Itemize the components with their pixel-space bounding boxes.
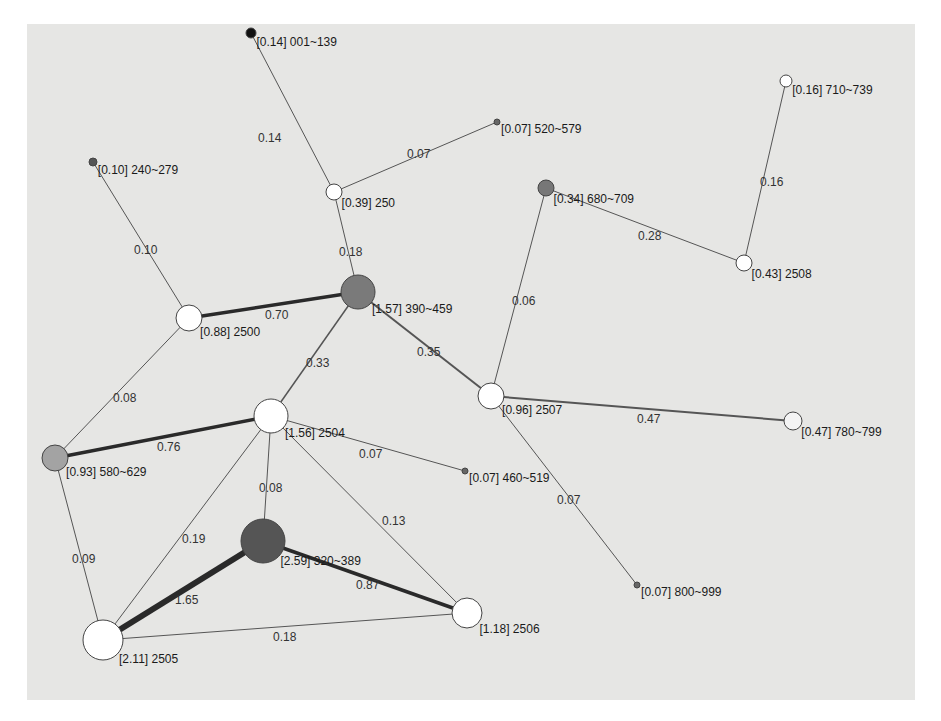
node-n240[interactable]: [0.10] 240~279 [89, 158, 179, 177]
node-label: [0.39] 250 [342, 196, 396, 210]
node-n460[interactable]: [0.07] 460~519 [462, 468, 550, 485]
edge-weight-label: 0.13 [382, 514, 406, 528]
edge-weight-label: 0.16 [760, 175, 784, 189]
edges-layer [55, 33, 793, 640]
node-n390[interactable]: [1.57] 390~459 [341, 275, 453, 316]
edge-weight-label: 0.18 [273, 630, 297, 644]
edge-weight-label: 0.18 [339, 245, 363, 259]
edge-weight-label: 0.08 [259, 481, 283, 495]
edge-weight-label: 0.07 [557, 493, 581, 507]
edge-weight-label: 0.70 [265, 308, 289, 322]
network-graph: 0.140.070.160.280.100.180.700.060.350.33… [0, 0, 941, 721]
node-n800[interactable]: [0.07] 800~999 [634, 582, 722, 599]
node-n001[interactable]: [0.14] 001~139 [246, 28, 337, 49]
edge-labels-layer: 0.140.070.160.280.100.180.700.060.350.33… [72, 131, 784, 644]
edge-n001-n250 [251, 33, 334, 192]
node-circle[interactable] [736, 255, 752, 271]
node-label: [1.18] 2506 [480, 622, 540, 636]
edge-n580-n2505 [55, 458, 103, 640]
node-label: [0.07] 800~999 [641, 585, 722, 599]
node-circle[interactable] [83, 620, 123, 660]
node-circle[interactable] [246, 28, 256, 38]
edge-n2504-n460 [271, 416, 465, 471]
node-circle[interactable] [42, 445, 68, 471]
node-label: [1.56] 2504 [285, 426, 345, 440]
node-n2504[interactable]: [1.56] 2504 [254, 399, 345, 440]
node-label: [0.16] 710~739 [792, 83, 873, 97]
edge-weight-label: 0.28 [638, 229, 662, 243]
node-n2506[interactable]: [1.18] 2506 [452, 598, 540, 636]
node-label: [0.88] 2500 [200, 325, 260, 339]
edge-weight-label: 0.19 [182, 532, 206, 546]
node-circle[interactable] [538, 180, 554, 196]
edge-weight-label: 1.65 [175, 593, 199, 607]
node-label: [0.07] 460~519 [469, 471, 550, 485]
node-label: [0.07] 520~579 [501, 122, 582, 136]
edge-n2507-n800 [491, 396, 637, 585]
edge-weight-label: 0.06 [512, 294, 536, 308]
node-label: [2.59] 320~389 [280, 554, 361, 568]
node-circle[interactable] [462, 468, 468, 474]
node-n710[interactable]: [0.16] 710~739 [780, 75, 873, 97]
node-circle[interactable] [478, 383, 504, 409]
node-circle[interactable] [452, 598, 482, 628]
edge-weight-label: 0.76 [157, 440, 181, 454]
node-label: [0.14] 001~139 [257, 35, 338, 49]
node-label: [0.47] 780~799 [801, 425, 882, 439]
node-circle[interactable] [89, 158, 97, 166]
node-n2505[interactable]: [2.11] 2505 [83, 620, 178, 666]
node-label: [1.57] 390~459 [372, 302, 453, 316]
node-circle[interactable] [241, 519, 285, 563]
edge-weight-label: 0.07 [407, 147, 431, 161]
node-circle[interactable] [326, 184, 342, 200]
node-label: [0.96] 2507 [502, 403, 562, 417]
node-label: [0.34] 680~709 [554, 192, 635, 206]
node-n320[interactable]: [2.59] 320~389 [241, 519, 361, 568]
node-circle[interactable] [176, 305, 202, 331]
edge-weight-label: 0.08 [113, 391, 137, 405]
edge-weight-label: 0.09 [72, 552, 96, 566]
edge-n320-n2506 [263, 541, 467, 613]
edge-n680-n2507 [491, 188, 546, 396]
edge-n710-n2508 [744, 81, 786, 263]
node-circle[interactable] [254, 399, 288, 433]
node-circle[interactable] [784, 412, 802, 430]
node-label: [2.11] 2505 [119, 652, 178, 666]
edge-weight-label: 0.35 [417, 345, 441, 359]
node-n2508[interactable]: [0.43] 2508 [736, 255, 812, 281]
node-circle[interactable] [494, 119, 500, 125]
edge-weight-label: 0.07 [359, 447, 383, 461]
node-label: [0.93] 580~629 [66, 465, 147, 479]
node-label: [0.43] 2508 [752, 267, 812, 281]
node-n780[interactable]: [0.47] 780~799 [784, 412, 882, 439]
edge-weight-label: 0.33 [306, 356, 330, 370]
edge-weight-label: 0.47 [637, 412, 661, 426]
node-n520[interactable]: [0.07] 520~579 [494, 119, 582, 136]
nodes-layer: [0.14] 001~139[0.07] 520~579[0.16] 710~7… [42, 28, 882, 666]
node-circle[interactable] [341, 275, 375, 309]
edge-weight-label: 0.14 [258, 131, 282, 145]
edge-weight-label: 0.87 [356, 578, 380, 592]
node-n250[interactable]: [0.39] 250 [326, 184, 395, 210]
node-circle[interactable] [634, 582, 640, 588]
edge-n240-n2500 [93, 162, 189, 318]
node-circle[interactable] [780, 75, 792, 87]
node-label: [0.10] 240~279 [98, 163, 179, 177]
edge-n320-n2505 [103, 541, 263, 640]
node-n680[interactable]: [0.34] 680~709 [538, 180, 634, 206]
edge-weight-label: 0.10 [134, 243, 158, 257]
